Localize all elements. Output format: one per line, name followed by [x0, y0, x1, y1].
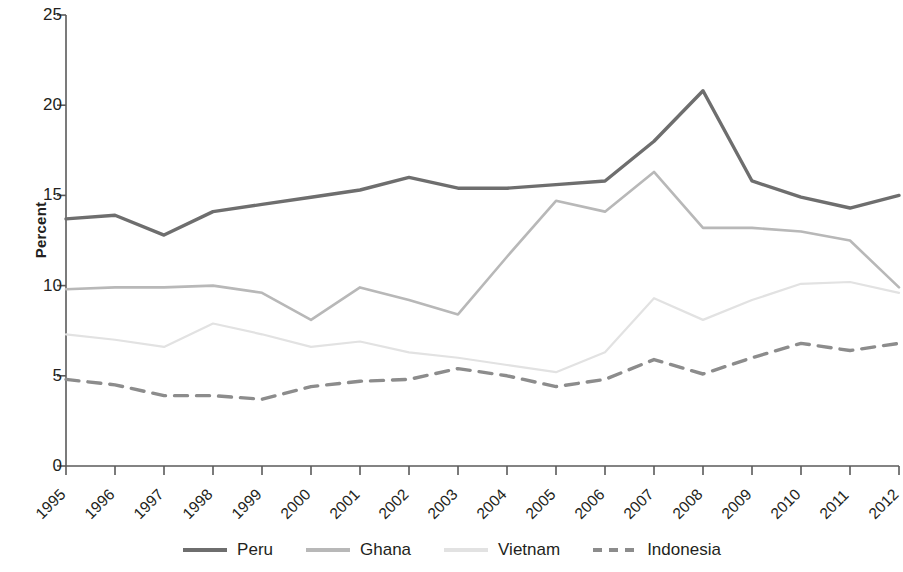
chart-legend: PeruGhanaVietnamIndonesia [0, 541, 903, 558]
series-line-indonesia [66, 343, 899, 399]
line-chart: Percent 2520151050 199519961997199819992… [0, 0, 903, 572]
legend-item-vietnam: Vietnam [443, 541, 560, 558]
y-tick: 10 [20, 277, 62, 278]
series-line-ghana [66, 172, 899, 320]
y-tick: 15 [20, 186, 62, 187]
y-tick-label: 0 [28, 457, 62, 474]
plot-area [0, 0, 903, 572]
y-tick-label: 15 [28, 186, 62, 203]
y-tick: 20 [20, 96, 62, 97]
y-tick-label: 10 [28, 277, 62, 294]
legend-label: Peru [237, 541, 273, 558]
y-tick: 25 [20, 6, 62, 7]
legend-label: Vietnam [498, 541, 560, 558]
legend-item-indonesia: Indonesia [592, 541, 721, 558]
legend-swatch-vietnam [443, 543, 489, 557]
y-tick-label: 20 [28, 96, 62, 113]
y-tick-label: 25 [28, 6, 62, 23]
series-line-vietnam [66, 282, 899, 372]
legend-swatch-indonesia [592, 543, 638, 557]
legend-label: Ghana [360, 541, 411, 558]
y-tick-label: 5 [28, 367, 62, 384]
series-line-peru [66, 91, 899, 235]
legend-item-peru: Peru [182, 541, 273, 558]
legend-swatch-ghana [305, 543, 351, 557]
legend-swatch-peru [182, 543, 228, 557]
legend-item-ghana: Ghana [305, 541, 411, 558]
y-tick: 0 [20, 457, 62, 458]
y-tick: 5 [20, 367, 62, 368]
legend-label: Indonesia [647, 541, 721, 558]
